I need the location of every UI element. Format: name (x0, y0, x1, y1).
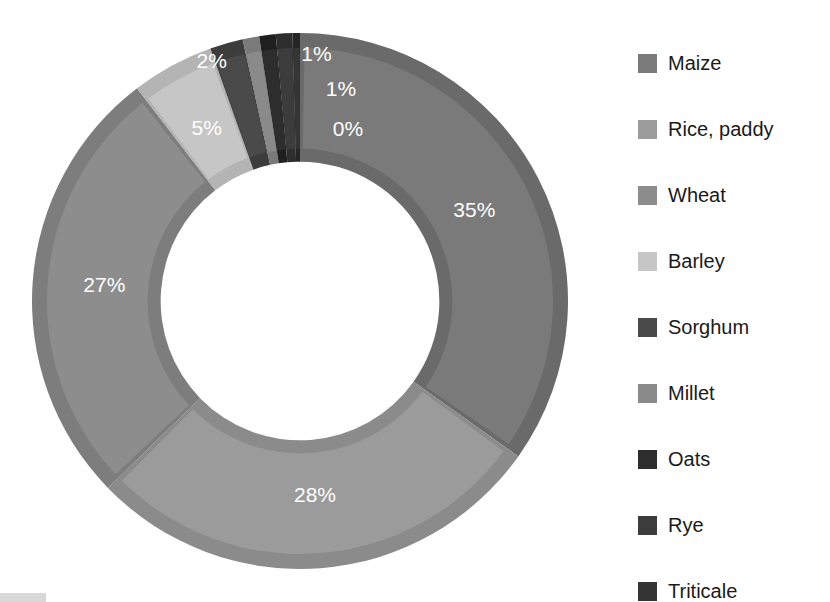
legend-swatch-icon (638, 318, 657, 337)
donut-chart-svg: 35%28%27%5%2%1%1%1%0% (0, 0, 600, 602)
slice-value-label: 27% (83, 273, 125, 296)
legend-item-rice-paddy[interactable]: Rice, paddy (600, 96, 830, 162)
slice-value-label: 28% (294, 483, 336, 506)
legend-item-label: Triticale (668, 581, 737, 601)
legend-swatch-icon (638, 186, 657, 205)
legend-item-millet[interactable]: Millet (600, 360, 830, 426)
legend-item-label: Maize (668, 53, 721, 73)
slice-value-label: 5% (191, 116, 221, 139)
legend-swatch-icon (638, 120, 657, 139)
legend-item-label: Millet (668, 383, 715, 403)
slice-value-label: 35% (453, 198, 495, 221)
legend-swatch-icon (638, 516, 657, 535)
page-corner-artifact (0, 593, 46, 602)
slice-value-label: 1% (261, 4, 291, 27)
legend-item-label: Oats (668, 449, 710, 469)
legend-item-triticale[interactable]: Triticale (600, 558, 830, 602)
slice-value-label: 1% (301, 42, 331, 65)
legend-item-label: Rye (668, 515, 704, 535)
legend-item-label: Sorghum (668, 317, 749, 337)
chart-legend: Maize Rice, paddy Wheat Barley Sorghum M… (600, 0, 830, 602)
chart-plot-area: 35%28%27%5%2%1%1%1%0% (0, 0, 600, 602)
donut-slice-face[interactable] (303, 48, 553, 444)
donut-chart-figure: 35%28%27%5%2%1%1%1%0% Maize Rice, paddy … (0, 0, 830, 602)
legend-swatch-icon (638, 54, 657, 73)
legend-swatch-icon (638, 582, 657, 601)
slice-value-label: 1% (326, 77, 356, 100)
legend-item-sorghum[interactable]: Sorghum (600, 294, 830, 360)
slice-value-label: 0% (333, 117, 363, 140)
legend-item-label: Wheat (668, 185, 726, 205)
legend-item-wheat[interactable]: Wheat (600, 162, 830, 228)
legend-item-label: Barley (668, 251, 725, 271)
legend-item-maize[interactable]: Maize (600, 30, 830, 96)
slice-value-label: 2% (197, 49, 227, 72)
legend-item-oats[interactable]: Oats (600, 426, 830, 492)
legend-swatch-icon (638, 450, 657, 469)
legend-item-rye[interactable]: Rye (600, 492, 830, 558)
legend-item-barley[interactable]: Barley (600, 228, 830, 294)
legend-swatch-icon (638, 384, 657, 403)
legend-item-label: Rice, paddy (668, 119, 774, 139)
legend-swatch-icon (638, 252, 657, 271)
